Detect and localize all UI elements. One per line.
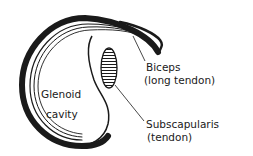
subscapularis-tendon — [101, 48, 117, 88]
biceps-label-line2: (long tendon) — [144, 74, 215, 86]
glenoid-label-line1: Glenoid — [41, 88, 81, 100]
subscapularis-leader-line — [115, 85, 144, 121]
subscapularis-label-line2: (tendon) — [147, 131, 192, 143]
glenoid-label-line2: cavity — [46, 108, 78, 120]
subscapularis-label-line1: Subscapularis — [146, 118, 219, 130]
biceps-label-line1: Biceps — [146, 61, 181, 73]
